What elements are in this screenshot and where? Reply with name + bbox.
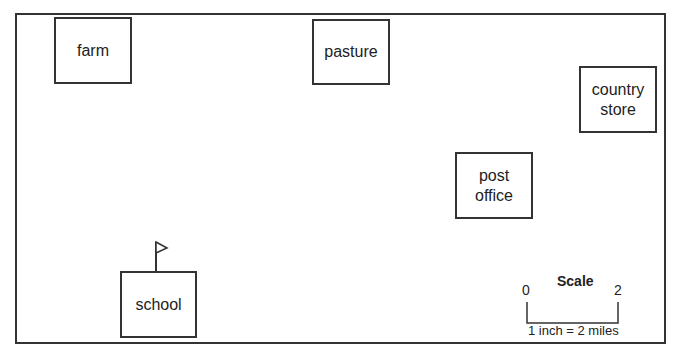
- map-scale: Scale 0 2 1 inch = 2 miles: [520, 270, 640, 340]
- school-label: school: [135, 295, 181, 315]
- farm-building: farm: [54, 17, 132, 84]
- post-office-label: post office: [469, 166, 519, 206]
- pasture-building: pasture: [312, 19, 390, 85]
- flag-icon: [150, 240, 180, 274]
- school-building: school: [120, 271, 197, 338]
- country-store-label: country store: [588, 80, 648, 120]
- scale-caption: 1 inch = 2 miles: [528, 323, 619, 338]
- post-office-building: post office: [455, 152, 533, 219]
- country-store-building: country store: [579, 66, 657, 133]
- pasture-label: pasture: [324, 42, 377, 62]
- farm-label: farm: [77, 41, 109, 61]
